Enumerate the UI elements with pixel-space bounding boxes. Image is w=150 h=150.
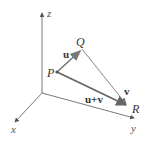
x-axis — [15, 93, 42, 122]
vector-addition-diagram: z x y P Q R u v u+v — [0, 0, 150, 150]
point-Q-label: Q — [76, 35, 85, 49]
z-axis-label: z — [46, 7, 52, 19]
vector-u-label: u — [63, 48, 69, 60]
vector-v-label: v — [124, 85, 130, 97]
vector-u-plus-v-label: u+v — [85, 93, 103, 105]
y-axis-label: y — [130, 122, 136, 134]
point-R-label: R — [131, 102, 140, 116]
point-P-dot — [55, 70, 58, 73]
x-axis-label: x — [10, 123, 16, 135]
point-P-label: P — [46, 66, 55, 80]
